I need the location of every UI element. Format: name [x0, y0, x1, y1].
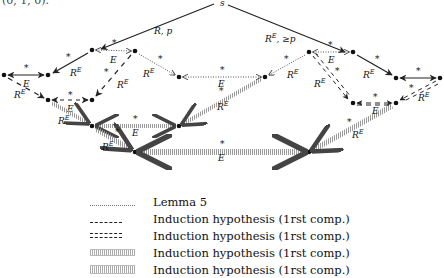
- svg-text:*: *: [133, 114, 138, 124]
- legend-item-dashed: Induction hypothesis (1rst comp.): [90, 210, 350, 227]
- edge-label-r-p: R, p: [153, 26, 172, 36]
- legend: Lemma 5 Induction hypothesis (1rst comp.…: [90, 193, 350, 278]
- svg-text:RE: RE: [313, 77, 326, 89]
- svg-text:*: *: [335, 66, 340, 76]
- svg-text:E: E: [327, 55, 335, 65]
- hatched-narrow-swatch: [90, 249, 135, 256]
- edge-label-re-geq-p: RE, ≥p: [264, 32, 296, 44]
- svg-text:*: *: [409, 83, 414, 93]
- svg-text:*: *: [220, 65, 225, 75]
- source-node-label: s: [220, 0, 225, 8]
- dotted-line-swatch: [90, 205, 135, 206]
- svg-text:RE: RE: [216, 100, 229, 112]
- svg-text:RE: RE: [351, 128, 364, 140]
- svg-text:*: *: [328, 40, 333, 50]
- svg-text:RE: RE: [101, 140, 114, 152]
- svg-text:*: *: [347, 117, 352, 127]
- svg-text:*: *: [416, 66, 421, 76]
- legend-item-hatched-wide: Induction hypothesis (1rst comp.): [90, 261, 350, 278]
- svg-text:RE: RE: [142, 67, 155, 79]
- svg-text:E: E: [371, 106, 379, 116]
- svg-text:*: *: [284, 54, 289, 64]
- legend-label: Induction hypothesis (1rst comp.): [153, 246, 350, 260]
- double-dashed-swatch: [90, 233, 122, 238]
- svg-text:RE: RE: [69, 66, 82, 78]
- svg-text:E: E: [217, 79, 225, 89]
- svg-text:RE: RE: [417, 91, 430, 103]
- svg-text:*: *: [68, 90, 73, 100]
- hatched-wide-swatch: [90, 265, 135, 274]
- svg-text:*: *: [220, 139, 225, 149]
- svg-text:*: *: [375, 54, 380, 64]
- svg-text:RE: RE: [362, 68, 375, 80]
- svg-text:*: *: [24, 63, 29, 73]
- svg-text:E: E: [131, 128, 139, 138]
- svg-text:*: *: [112, 38, 117, 48]
- svg-text:*: *: [373, 92, 378, 102]
- svg-text:E: E: [109, 55, 117, 65]
- svg-text:RE: RE: [116, 78, 129, 90]
- legend-label: Lemma 5: [153, 195, 207, 209]
- legend-item-double-dashed: Induction hypothesis (1rst comp.): [90, 227, 350, 244]
- svg-text:*: *: [115, 127, 120, 137]
- svg-text:*: *: [104, 67, 109, 77]
- legend-label: Induction hypothesis (1rst comp.): [153, 212, 350, 226]
- svg-text:RE: RE: [13, 88, 26, 100]
- legend-item-lemma5: Lemma 5: [90, 193, 350, 210]
- legend-label: Induction hypothesis (1rst comp.): [153, 229, 350, 243]
- legend-item-hatched-narrow: Induction hypothesis (1rst comp.): [90, 244, 350, 261]
- legend-label: Induction hypothesis (1rst comp.): [153, 263, 350, 277]
- dashed-line-swatch: [90, 222, 122, 223]
- svg-text:*: *: [158, 54, 163, 64]
- svg-text:RE: RE: [286, 68, 299, 80]
- svg-text:RE: RE: [57, 114, 70, 126]
- svg-text:E: E: [217, 153, 225, 163]
- svg-text:*: *: [66, 52, 71, 62]
